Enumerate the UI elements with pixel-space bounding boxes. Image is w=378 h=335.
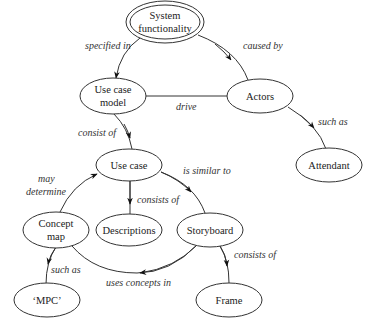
- svg-text:caused by: caused by: [243, 40, 283, 51]
- svg-text:determine: determine: [26, 186, 67, 197]
- edge-specified-in: specified in: [85, 38, 140, 78]
- svg-text:Actors: Actors: [246, 91, 274, 102]
- svg-text:may: may: [38, 173, 55, 184]
- svg-text:uses concepts in: uses concepts in: [106, 277, 171, 288]
- node-frame: Frame: [196, 283, 262, 317]
- svg-text:Attendant: Attendant: [308, 160, 349, 171]
- node-attendant: Attendant: [296, 148, 362, 182]
- edge-consist-of: consist of: [78, 114, 132, 149]
- svg-text:drive: drive: [176, 101, 197, 112]
- svg-text:consists of: consists of: [234, 249, 277, 260]
- svg-text:consist of: consist of: [78, 127, 117, 138]
- svg-text:map: map: [47, 231, 65, 242]
- node-system-functionality: System functionality: [126, 1, 204, 43]
- svg-text:functionality: functionality: [138, 23, 192, 34]
- svg-text:Descriptions: Descriptions: [102, 225, 155, 236]
- svg-text:‘MPC’: ‘MPC’: [32, 295, 61, 306]
- svg-text:such as: such as: [51, 264, 81, 275]
- node-mpc: ‘MPC’: [14, 283, 80, 317]
- node-use-case-model: Use case model: [80, 78, 146, 114]
- edge-such-as-attendant: such as: [288, 107, 348, 149]
- svg-text:is similar to: is similar to: [183, 165, 231, 176]
- edge-consists-of-descriptions: consists of: [130, 181, 180, 214]
- svg-text:Use case: Use case: [110, 160, 147, 171]
- svg-text:System: System: [150, 10, 181, 21]
- svg-text:consists of: consists of: [137, 194, 180, 205]
- concept-map-diagram: specified in caused by drive such as con…: [0, 0, 378, 335]
- svg-text:Storyboard: Storyboard: [187, 225, 234, 236]
- node-descriptions: Descriptions: [96, 214, 162, 246]
- edge-uses-concepts-in: uses concepts in: [72, 245, 197, 288]
- node-use-case: Use case: [96, 149, 162, 181]
- svg-text:Frame: Frame: [216, 295, 243, 306]
- edge-may-determine: may determine: [26, 173, 97, 212]
- edge-is-similar-to: is similar to: [161, 165, 231, 213]
- edge-caused-by: caused by: [198, 35, 283, 80]
- svg-text:model: model: [100, 97, 126, 108]
- svg-text:such as: such as: [318, 116, 348, 127]
- node-concept-map: Concept map: [23, 212, 89, 248]
- edge-drive: drive: [139, 96, 227, 112]
- svg-text:Use case: Use case: [94, 84, 131, 95]
- edge-consists-of-frame: consists of: [220, 246, 277, 283]
- svg-text:specified in: specified in: [85, 40, 131, 51]
- svg-text:Concept: Concept: [39, 218, 74, 229]
- node-actors: Actors: [227, 79, 293, 113]
- edge-such-as-mpc: such as: [46, 247, 81, 284]
- node-storyboard: Storyboard: [177, 213, 243, 247]
